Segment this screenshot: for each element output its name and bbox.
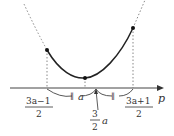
point-vertex xyxy=(83,76,87,80)
mid-label-var: a xyxy=(102,115,108,126)
equal-mark-left: ∥ xyxy=(70,92,74,101)
vertex-label: a xyxy=(78,91,84,102)
curve-dotted-left xyxy=(24,4,47,50)
left-label-denominator: 2 xyxy=(36,109,42,119)
left-label-numerator: 3a−1 xyxy=(26,96,50,106)
axis-arrow-icon xyxy=(157,85,164,91)
point-left xyxy=(45,48,49,52)
right-label-numerator: 3a+1 xyxy=(126,96,150,106)
curve-dotted-right xyxy=(133,0,145,28)
mid-label-numerator: 3 xyxy=(92,109,98,119)
point-right xyxy=(131,26,135,30)
diagram-canvas: p ∥ ∥ a 3a−1 2 3a+1 2 3 2 a xyxy=(0,0,174,136)
parabola-solid xyxy=(47,28,133,78)
mid-label-denominator: 2 xyxy=(92,122,98,132)
right-label-denominator: 2 xyxy=(136,109,142,119)
equal-mark-right: ∥ xyxy=(111,92,115,101)
axis-label: p xyxy=(158,92,165,105)
